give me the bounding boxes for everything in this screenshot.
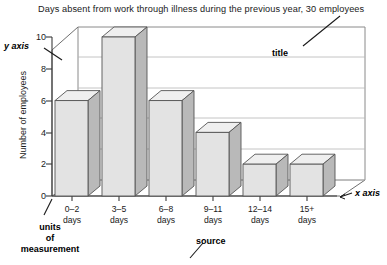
- y-tick-label: 0: [41, 191, 46, 201]
- bar-front-face: [290, 164, 323, 196]
- bar-front-face: [149, 101, 182, 196]
- bar-side-face: [229, 122, 241, 196]
- bar-column: [243, 154, 288, 196]
- x-tick-label: 3–5 days: [92, 204, 146, 225]
- x-axis: [52, 196, 337, 201]
- annotation-units-line1: units: [0, 222, 100, 232]
- y-tick-label: 2: [41, 159, 46, 169]
- annotation-units-line3: measurement: [0, 244, 100, 254]
- y-tick-label: 8: [41, 64, 46, 74]
- y-axis-leader-line: [44, 48, 62, 60]
- bar-column: [55, 91, 100, 196]
- bar-column: [149, 91, 194, 196]
- x-tick-label: 12–14 days: [233, 204, 287, 225]
- bar-column: [102, 27, 147, 196]
- bar-column: [290, 154, 335, 196]
- bar-side-face: [88, 91, 100, 196]
- x-tick-label: 9–11 days: [186, 204, 240, 225]
- annotation-x-axis: x axis: [355, 188, 380, 198]
- bar-front-face: [243, 164, 276, 196]
- x-tick-label: 6–8 days: [139, 204, 193, 225]
- bar-series: [55, 27, 335, 196]
- y-tick-label: 10: [36, 32, 46, 42]
- bar-front-face: [196, 132, 229, 196]
- bar-front-face: [55, 101, 88, 196]
- annotation-units-line2: of: [0, 233, 100, 243]
- y-tick-label: 6: [41, 96, 46, 106]
- x-tick-label: 15+ days: [280, 204, 334, 225]
- annotation-title: title: [272, 48, 288, 58]
- y-axis: [46, 37, 52, 196]
- bar-side-face: [135, 27, 147, 196]
- annotation-source: source: [196, 236, 226, 246]
- annotation-y-axis: y axis: [4, 41, 29, 51]
- title-leader-line: [303, 16, 340, 46]
- bar-side-face: [182, 91, 194, 196]
- bar-front-face: [102, 37, 135, 196]
- y-tick-label: 4: [41, 128, 46, 138]
- chart-figure: Days absent from work through illness du…: [0, 0, 387, 265]
- bar-column: [196, 122, 241, 196]
